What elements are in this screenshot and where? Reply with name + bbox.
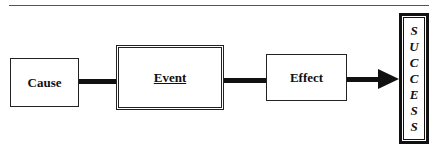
success-letter: C xyxy=(410,56,419,69)
success-letter: S xyxy=(410,24,417,37)
connector-event-effect xyxy=(224,78,266,83)
event-box: Event xyxy=(116,45,224,110)
success-box: S U C C E S S xyxy=(399,13,429,144)
success-letter: C xyxy=(410,72,419,85)
success-letter: S xyxy=(410,104,417,117)
effect-label: Effect xyxy=(290,70,323,86)
success-letter: E xyxy=(410,88,419,101)
top-rule xyxy=(9,5,429,6)
success-letter: S xyxy=(410,120,417,133)
cause-label: Cause xyxy=(28,75,62,91)
connector-cause-event xyxy=(79,79,117,84)
success-letter: U xyxy=(409,40,418,53)
event-label: Event xyxy=(154,70,187,86)
cause-box: Cause xyxy=(10,58,79,107)
arrowhead-icon xyxy=(378,69,399,89)
effect-box: Effect xyxy=(266,54,347,101)
